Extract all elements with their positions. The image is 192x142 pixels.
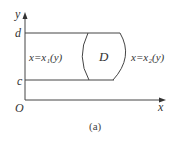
origin-label: O xyxy=(15,102,24,114)
right-boundary-curve xyxy=(113,33,126,80)
tick-label-c: c xyxy=(17,75,22,87)
left-boundary-label: x=x₁(y) xyxy=(29,51,62,63)
tick-label-d: d xyxy=(15,27,21,39)
x-axis-label: x xyxy=(158,101,163,113)
left-boundary-curve xyxy=(82,33,89,80)
y-axis-label: y xyxy=(15,8,20,20)
y-axis-arrow-icon xyxy=(23,12,28,19)
figure-caption: (a) xyxy=(89,121,101,132)
right-boundary-label: x=x₂(y) xyxy=(131,51,164,63)
region-label: D xyxy=(99,51,108,63)
